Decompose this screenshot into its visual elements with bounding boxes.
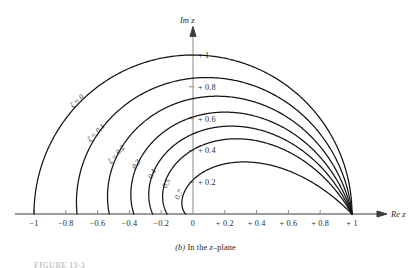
imaginary-axis-title: Im z <box>179 15 195 25</box>
zeta-locus-curve <box>182 162 352 214</box>
x-tick-label: + 0.6 <box>279 219 297 228</box>
z-plane-plot: −1−0.8−0.6−0.4−0.20+ 0.2+ 0.4+ 0.6+ 0.8+… <box>0 0 411 268</box>
caption-part-label: (b) <box>175 243 185 252</box>
real-axis-arrowhead <box>377 211 387 217</box>
x-tick-label: + 0.8 <box>311 219 329 228</box>
caption-part-suffix: –plane <box>213 243 236 252</box>
figure-caption: (b) In the z–plane <box>0 243 411 252</box>
figure-number: FIGURE 13-3 <box>34 261 85 268</box>
x-tick-label: + 0.4 <box>248 219 266 228</box>
zeta-locus-curve <box>108 96 352 214</box>
zeta-locus-curve <box>131 112 352 214</box>
x-tick-group: −1−0.8−0.6−0.4−0.20+ 0.2+ 0.4+ 0.6+ 0.8+… <box>29 210 357 228</box>
y-tick-label: + 0.2 <box>198 178 216 187</box>
zeta-curve-label: ζ = 0 <box>68 92 86 109</box>
y-tick-label: + 0.8 <box>198 83 216 92</box>
zeta-curve-label: 0.3 <box>130 157 143 170</box>
curve-label-group: ζ = 0ζ = 0.1ζ = 0.20.30.40.50.7 <box>68 92 185 201</box>
zeta-curve-label: ζ = 0.2 <box>106 143 127 165</box>
x-tick-label: −0.8 <box>58 219 74 228</box>
x-tick-label: −0.2 <box>153 219 169 228</box>
caption-part-text: In the <box>187 243 207 252</box>
imaginary-axis-arrowhead <box>190 26 196 36</box>
zeta-curve-label: 0.7 <box>173 187 186 200</box>
x-tick-label: + 1 <box>346 219 357 228</box>
y-tick-label: + 0.4 <box>198 146 216 155</box>
figure-z-plane: −1−0.8−0.6−0.4−0.20+ 0.2+ 0.4+ 0.6+ 0.8+… <box>0 0 411 268</box>
x-tick-label: −0.4 <box>122 219 138 228</box>
x-tick-label: −1 <box>29 219 38 228</box>
zeta-curve-label: ζ = 0.1 <box>85 122 106 144</box>
zeta-curve-label: 0.5 <box>160 177 172 190</box>
real-axis-title: Re z <box>390 209 406 219</box>
x-tick-label: −0.6 <box>90 219 106 228</box>
x-tick-label: + 0.2 <box>216 219 234 228</box>
zeta-curve-label: 0.4 <box>146 167 159 180</box>
y-tick-label: + 0.6 <box>198 115 216 124</box>
x-tick-label: 0 <box>191 219 195 228</box>
